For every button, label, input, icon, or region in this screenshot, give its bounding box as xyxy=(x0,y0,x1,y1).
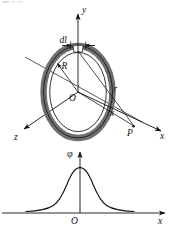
physics-figure-svg: dl y R r x O xyxy=(0,0,172,229)
label-axis-z: z xyxy=(13,132,18,142)
label-axis-x: x xyxy=(159,131,165,141)
label-P: P xyxy=(126,128,133,138)
label-axis-phi: φ xyxy=(67,148,73,159)
label-plot-axis-x: x xyxy=(157,216,163,226)
scan-artifact xyxy=(2,1,22,3)
label-r: r xyxy=(114,84,118,94)
figure-root: dl y R r x O xyxy=(0,0,172,229)
label-plot-origin: O xyxy=(71,216,78,226)
label-dl: dl xyxy=(60,35,68,45)
label-x-distance: x xyxy=(109,108,115,118)
label-axis-y: y xyxy=(81,5,87,15)
potential-vs-x-plot: φ x O xyxy=(2,148,165,226)
label-O-center: O xyxy=(69,93,76,103)
charged-ring-3d-diagram: dl y R r x O xyxy=(13,5,165,142)
axis-x xyxy=(78,92,161,131)
label-R: R xyxy=(61,61,68,71)
